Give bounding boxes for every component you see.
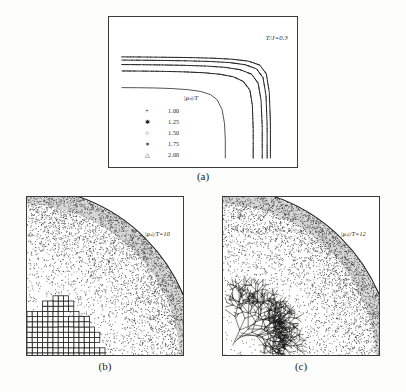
- legend-item-value: 1.50: [168, 130, 179, 136]
- panel-c-caption: (c): [222, 360, 380, 372]
- asterisk-marker: ∗: [140, 141, 154, 147]
- panel-a: T/J=0.3 |μₛ|/T + 1.00 ✱ 1.25 ○ 1.50 ∗ 1.…: [108, 16, 298, 168]
- panel-b-frame: [26, 196, 184, 356]
- open-circle-marker: ○: [140, 130, 154, 136]
- panel-c-annotation: |μₛ|/T=12: [341, 230, 366, 237]
- panel-b: |μₛ|/T=10: [26, 196, 184, 356]
- panel-c: |μₛ|/T=12: [222, 196, 380, 356]
- asterisk-filled-marker: ✱: [140, 119, 154, 125]
- panel-a-legend-title: |μₛ|/T: [156, 94, 226, 102]
- panel-c-simulation-plot: [223, 197, 380, 356]
- legend-item-value: 1.25: [168, 119, 179, 125]
- legend-item: ○ 1.50: [140, 127, 226, 138]
- panel-a-caption: (a): [108, 170, 298, 182]
- panel-a-legend: |μₛ|/T + 1.00 ✱ 1.25 ○ 1.50 ∗ 1.75 △ 2.0…: [140, 94, 226, 160]
- legend-item: ∗ 1.75: [140, 138, 226, 149]
- panel-b-caption: (b): [26, 360, 184, 372]
- legend-item-value: 1.00: [168, 108, 179, 114]
- panel-c-frame: [222, 196, 380, 356]
- panel-b-simulation-plot: [27, 197, 184, 356]
- panel-b-annotation: |μₛ|/T=10: [145, 230, 170, 237]
- legend-item-value: 1.75: [168, 141, 179, 147]
- figure-root: T/J=0.3 |μₛ|/T + 1.00 ✱ 1.25 ○ 1.50 ∗ 1.…: [0, 0, 406, 392]
- legend-item: △ 2.00: [140, 149, 226, 160]
- legend-item-value: 2.00: [168, 152, 179, 158]
- open-triangle-marker: △: [140, 152, 154, 158]
- legend-item: + 1.00: [140, 105, 226, 116]
- legend-item: ✱ 1.25: [140, 116, 226, 127]
- plus-marker: +: [140, 108, 154, 114]
- panel-a-temperature-annotation: T/J=0.3: [266, 34, 288, 41]
